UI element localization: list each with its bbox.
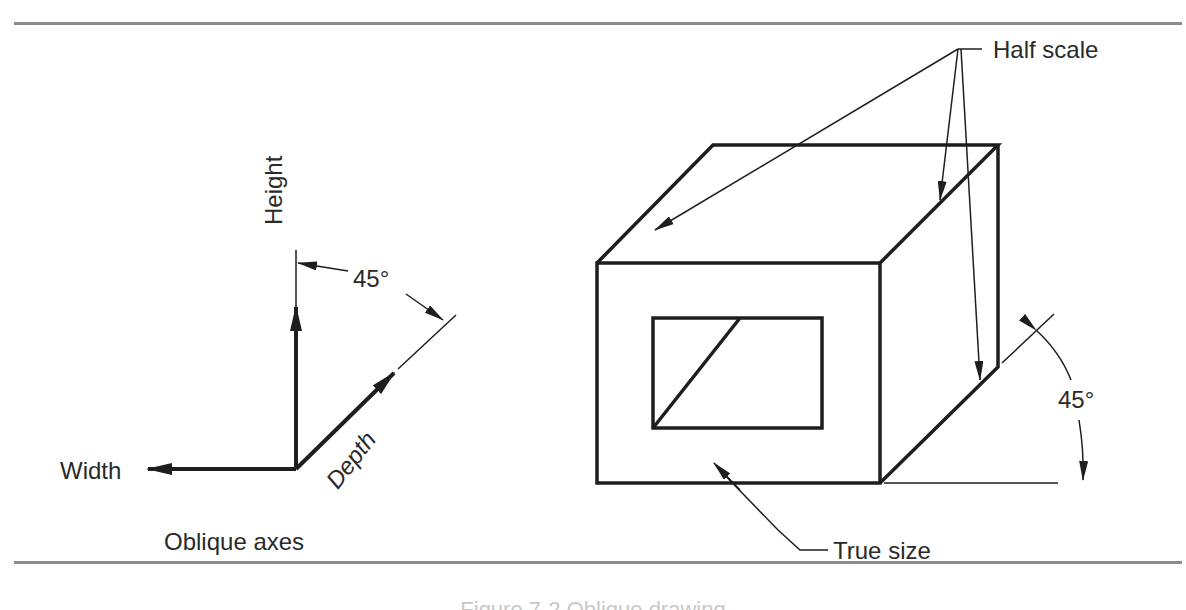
oblique-box — [597, 145, 998, 483]
window-diagonal — [653, 318, 740, 428]
angle-arc-upper — [1036, 330, 1071, 380]
half-scale-label: Half scale — [993, 38, 1098, 62]
front-window — [653, 318, 822, 428]
angle-label-left: 45° — [353, 267, 389, 291]
angle-arrow-left — [298, 263, 348, 271]
side-face — [880, 145, 998, 483]
figure-caption: Figure 7-2 Oblique drawing — [0, 599, 1186, 610]
angle-label-right: 45° — [1058, 388, 1094, 412]
oblique-diagram — [0, 0, 1186, 610]
half-scale-arrow-2 — [940, 49, 958, 200]
depth-extension-line-right — [1002, 314, 1054, 363]
half-scale-arrow-1 — [655, 49, 958, 230]
depth-extension-line — [398, 315, 456, 369]
true-size-arrow — [714, 463, 740, 490]
oblique-axes — [148, 250, 456, 469]
width-label: Width — [60, 459, 121, 483]
angle-arrow-right — [406, 294, 443, 320]
half-scale-arrow-3 — [961, 49, 980, 380]
true-size-leader — [716, 466, 828, 550]
height-label: Height — [262, 156, 286, 225]
oblique-axes-title: Oblique axes — [164, 530, 304, 554]
front-face — [597, 263, 880, 483]
true-size-label: True size — [833, 539, 931, 563]
angle-arc-lower — [1079, 420, 1083, 480]
top-face — [597, 145, 998, 263]
